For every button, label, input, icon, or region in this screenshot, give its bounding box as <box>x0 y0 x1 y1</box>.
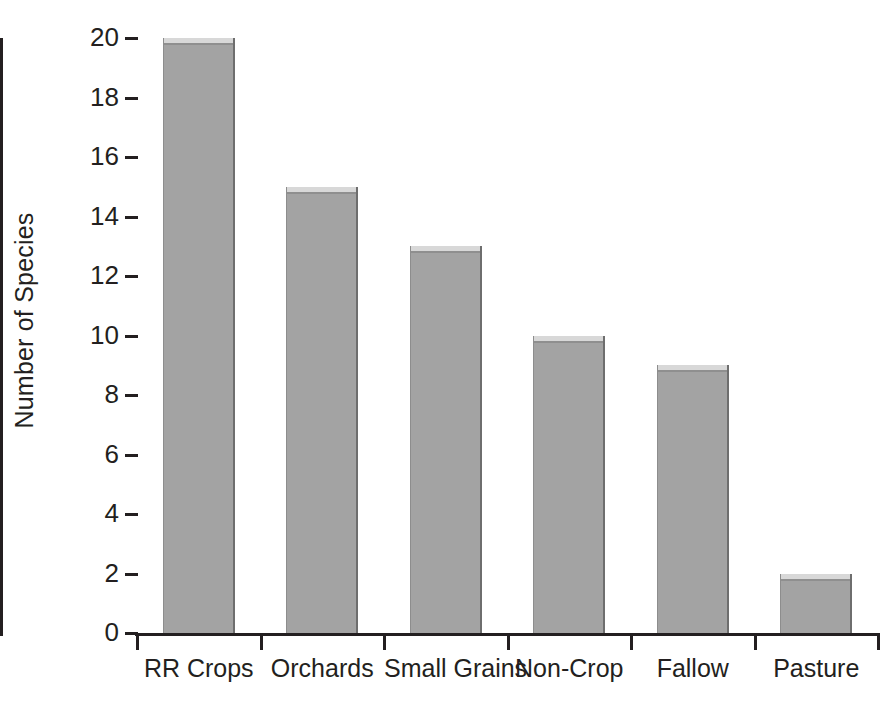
x-axis-tick-label: Small Grains <box>384 655 508 682</box>
x-axis-tick <box>507 636 510 650</box>
bar <box>286 187 358 633</box>
bar <box>780 574 852 634</box>
y-axis-tick <box>125 394 138 397</box>
y-axis-tick-label: 6 <box>59 441 119 467</box>
y-axis-tick <box>125 275 138 278</box>
bar-chart-figure: Number of Species 02468101214161820 RR C… <box>0 0 883 709</box>
y-axis-tick-label: 20 <box>59 24 119 50</box>
y-axis-title: Number of Species <box>0 0 48 640</box>
x-axis-tick <box>877 636 880 650</box>
y-axis-tick <box>125 513 138 516</box>
bar <box>163 38 235 633</box>
x-axis-tick-label: Fallow <box>631 655 755 682</box>
bar <box>410 246 482 633</box>
x-axis-tick <box>383 636 386 650</box>
y-axis-tick-label: 2 <box>59 560 119 586</box>
y-axis-tick-label: 4 <box>59 500 119 526</box>
bar <box>657 365 729 633</box>
y-axis-tick <box>125 216 138 219</box>
y-axis-tick-label: 0 <box>59 619 119 645</box>
y-axis-line <box>0 38 3 636</box>
y-axis-tick <box>125 335 138 338</box>
x-axis-tick <box>260 636 263 650</box>
y-axis-tick <box>125 97 138 100</box>
y-axis-tick-label: 14 <box>59 203 119 229</box>
x-axis-tick-label: Pasture <box>755 655 879 682</box>
x-axis-tick-label: RR Crops <box>137 655 261 682</box>
x-axis-tick <box>136 636 139 650</box>
x-axis-tick <box>630 636 633 650</box>
y-axis-tick-label: 16 <box>59 143 119 169</box>
y-axis-tick-label: 12 <box>59 262 119 288</box>
y-axis-tick-label: 8 <box>59 381 119 407</box>
y-axis-tick <box>125 37 138 40</box>
bar <box>533 336 605 634</box>
y-axis-tick-label: 18 <box>59 84 119 110</box>
y-axis-tick <box>125 454 138 457</box>
x-axis-tick-label: Non-Crop <box>508 655 632 682</box>
y-axis-tick <box>125 573 138 576</box>
y-axis-title-label: Number of Species <box>10 212 39 428</box>
y-axis-tick-label: 10 <box>59 322 119 348</box>
x-axis-tick-label: Orchards <box>261 655 385 682</box>
y-axis-tick <box>125 632 138 635</box>
y-axis-tick <box>125 156 138 159</box>
x-axis-tick <box>754 636 757 650</box>
